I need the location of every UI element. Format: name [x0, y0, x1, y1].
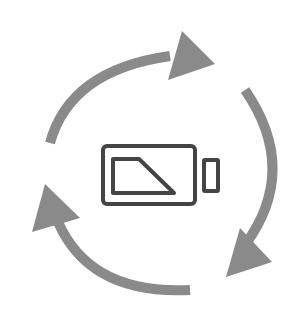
left-cycle-arrow-icon [32, 184, 190, 290]
top-cycle-arrow-icon [50, 31, 215, 143]
battery-recycle-icon-canvas: battery-recycle-icon [0, 0, 307, 328]
battery-icon [103, 146, 218, 204]
right-cycle-arrow-icon [226, 90, 273, 277]
